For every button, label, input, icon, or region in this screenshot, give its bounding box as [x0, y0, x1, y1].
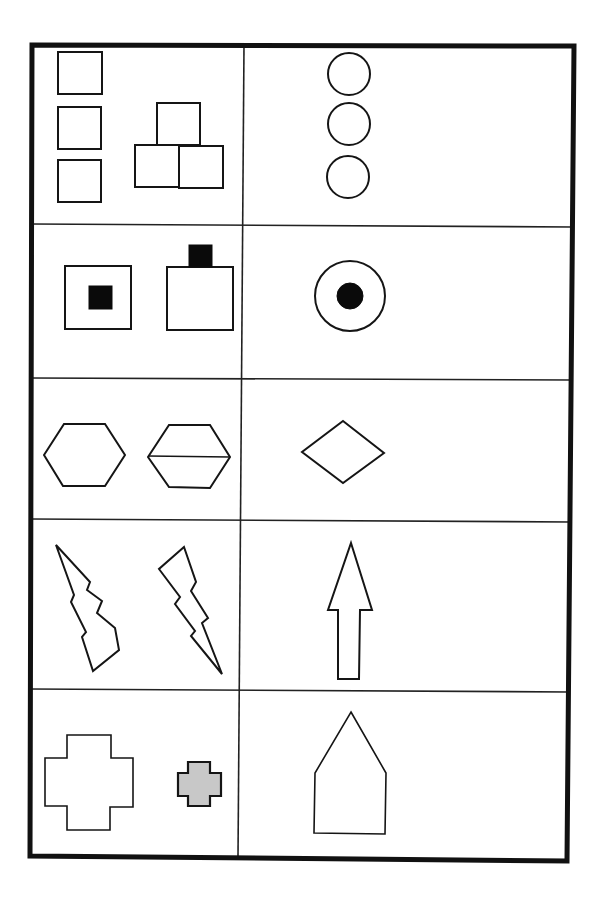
polygon-shape	[328, 543, 372, 679]
row-1-left-cell: three stacked squares and pyramid of thr…	[58, 52, 223, 202]
row-1-right-cell: three stacked circles	[327, 53, 370, 198]
row-3: hexagon, hexagon split horizontallydiamo…	[44, 421, 384, 488]
row-3-right-cell: diamond	[302, 421, 384, 483]
square-shape	[157, 103, 200, 145]
circle-shape	[328, 103, 370, 145]
square-shape	[135, 145, 179, 187]
polygon-shape	[159, 547, 222, 674]
square-shape	[58, 107, 101, 149]
filled-square-shape	[89, 286, 112, 309]
split-line	[148, 456, 230, 457]
row-5-right-cell: pentagon house shape	[314, 712, 386, 834]
square-shape	[179, 146, 223, 188]
row-4: lightning bolt pointing up-left, lightni…	[56, 543, 372, 679]
polygon-shape	[178, 762, 221, 806]
row-divider-1	[32, 224, 573, 227]
row-divider-2	[31, 378, 572, 380]
row-2-left-cell: square with inner black square, square w…	[65, 245, 233, 330]
row-5-left-cell: large white cross, small gray cross	[45, 735, 221, 830]
circle-shape	[328, 53, 370, 95]
square-shape	[58, 160, 101, 202]
circle-shape	[327, 156, 369, 198]
polygon-shape	[44, 424, 125, 486]
square-shape	[167, 267, 233, 330]
polygon-shape	[45, 735, 133, 830]
column-divider	[238, 45, 244, 858]
square-shape	[58, 52, 102, 94]
filled-square-shape	[189, 245, 212, 267]
row-4-left-cell: lightning bolt pointing up-left, lightni…	[56, 545, 222, 674]
row-1: three stacked squares and pyramid of thr…	[58, 52, 370, 202]
row-4-right-cell: upward arrow	[328, 543, 372, 679]
row-2-right-cell: circle with inner black dot	[315, 261, 385, 331]
row-divider-4	[30, 689, 569, 692]
row-2: square with inner black square, square w…	[65, 245, 385, 331]
row-5: large white cross, small gray crosspenta…	[45, 712, 386, 834]
polygon-shape	[56, 545, 119, 671]
puzzle-rows: three stacked squares and pyramid of thr…	[44, 52, 386, 834]
filled-dot-shape	[337, 283, 363, 309]
row-3-left-cell: hexagon, hexagon split horizontally	[44, 424, 230, 488]
polygon-shape	[302, 421, 384, 483]
row-divider-3	[31, 519, 571, 522]
analogy-worksheet: three stacked squares and pyramid of thr…	[0, 0, 606, 906]
polygon-shape	[314, 712, 386, 834]
